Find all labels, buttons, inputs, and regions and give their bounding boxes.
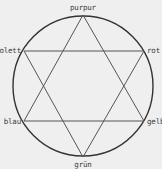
label-gelb: gelb — [147, 117, 162, 126]
label-rot: rot — [147, 46, 160, 55]
label-purpur: purpur — [70, 3, 97, 12]
label-violett: violett — [0, 46, 21, 55]
color-hexagram-diagram: purpur rot gelb grün blau violett — [0, 0, 162, 169]
label-blau: blau — [4, 117, 21, 126]
label-gruen: grün — [74, 160, 91, 169]
outer-circle — [13, 16, 153, 156]
diagram-svg: purpur rot gelb grün blau violett — [0, 0, 162, 169]
